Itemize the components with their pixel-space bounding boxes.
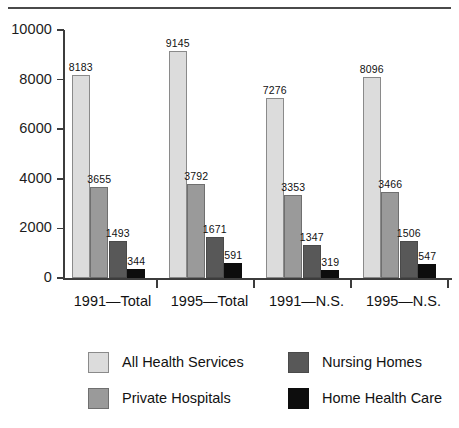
legend-color-swatch [88,352,109,373]
bar-value-label: 344 [122,256,150,267]
x-axis-tick [156,279,158,288]
bar-value-label: 1671 [201,224,229,235]
bars-layer: 8183365514933449145379216715917276335313… [64,30,452,278]
bar-value-label: 3792 [182,171,210,182]
y-axis-tick-label: 4000 [0,171,52,185]
x-axis-tick [253,279,255,288]
bar-group: 914537921671591 [161,30,258,278]
y-axis-tick-label: 2000 [0,220,52,234]
bar [169,51,187,278]
bar-value-label: 3466 [376,179,404,190]
bar [321,270,339,278]
bar-group: 818336551493344 [64,30,161,278]
bar-value-label: 591 [219,250,247,261]
y-axis-tick [57,228,64,230]
bar-value-label: 3655 [85,174,113,185]
bar [127,269,145,278]
y-axis-tick [57,29,64,31]
y-axis-tick [57,128,64,130]
chart-legend: All Health ServicesNursing HomesPrivate … [0,352,459,414]
legend-item[interactable]: Private Hospitals [88,388,231,409]
y-axis-tick [57,79,64,81]
legend-label: All Health Services [122,355,244,370]
bar-group: 809634661506547 [355,30,452,278]
bar-value-label: 1347 [298,232,326,243]
bar [224,263,242,278]
y-axis-tick-label: 0 [0,270,52,284]
x-axis-category-label: 1995—N.S. [341,293,459,309]
legend-item[interactable]: Nursing Homes [288,352,422,373]
y-axis-tick-label: 10000 [0,22,52,36]
legend-item[interactable]: Home Health Care [288,388,442,409]
x-axis-tick [447,279,449,288]
bar-value-label: 9145 [164,38,192,49]
legend-color-swatch [288,352,309,373]
plot-area: 0200040006000800010000 81833655149334491… [0,0,459,330]
bar-value-label: 7276 [261,85,289,96]
bar-value-label: 1493 [104,228,132,239]
x-axis-tick [350,279,352,288]
y-axis-tick [57,277,64,279]
bar-value-label: 3353 [279,182,307,193]
bar-value-label: 319 [316,257,344,268]
y-axis-tick-label: 6000 [0,121,52,135]
bar [418,264,436,278]
x-axis-line [63,278,452,280]
legend-color-swatch [288,388,309,409]
bar-value-label: 8096 [358,64,386,75]
legend-color-swatch [88,388,109,409]
bar-value-label: 8183 [67,62,95,73]
legend-label: Home Health Care [322,391,442,406]
legend-label: Nursing Homes [322,355,422,370]
legend-item[interactable]: All Health Services [88,352,244,373]
y-axis-tick [57,178,64,180]
bar-group: 727633531347319 [258,30,355,278]
y-axis-tick-label: 8000 [0,72,52,86]
chart-figure: 0200040006000800010000 81833655149334491… [0,0,459,428]
bar-value-label: 1506 [395,228,423,239]
legend-label: Private Hospitals [122,391,231,406]
bar-value-label: 547 [413,251,441,262]
